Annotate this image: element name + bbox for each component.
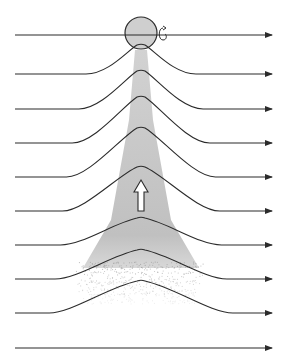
streamline-8 <box>15 280 272 313</box>
rotation-arrow-icon <box>159 26 166 40</box>
flow-diagram <box>0 0 287 363</box>
diagram-canvas <box>0 0 287 363</box>
